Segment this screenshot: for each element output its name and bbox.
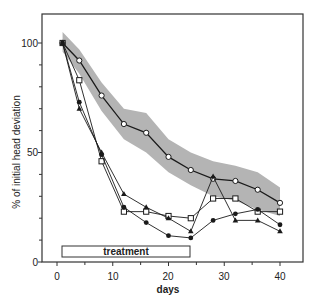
data-point bbox=[166, 154, 171, 159]
data-point bbox=[166, 233, 171, 238]
data-point bbox=[144, 130, 149, 135]
data-point bbox=[277, 200, 282, 205]
data-point bbox=[77, 58, 82, 63]
data-point bbox=[188, 228, 194, 233]
data-point bbox=[188, 167, 193, 172]
shaded-band bbox=[63, 32, 280, 216]
data-point bbox=[121, 191, 127, 196]
x-tick-label-20: 20 bbox=[162, 271, 174, 282]
x-tick-label-40: 40 bbox=[274, 271, 286, 282]
y-axis-title: % of initial head deviation bbox=[11, 95, 22, 208]
x-tick-label-10: 10 bbox=[107, 271, 119, 282]
y-tick-label-0: 0 bbox=[32, 257, 38, 268]
series-lines bbox=[60, 40, 283, 240]
data-point bbox=[278, 222, 283, 227]
x-tick-label-30: 30 bbox=[218, 271, 230, 282]
data-point bbox=[143, 204, 149, 209]
data-point bbox=[121, 209, 126, 214]
control-range-band bbox=[63, 32, 280, 216]
data-point bbox=[255, 217, 261, 222]
data-point bbox=[121, 121, 126, 126]
line-chart: 100 50 0 0 10 20 30 40 days % of initial… bbox=[0, 0, 317, 306]
data-point bbox=[255, 187, 260, 192]
data-point bbox=[255, 207, 260, 212]
data-point bbox=[99, 93, 104, 98]
data-point bbox=[211, 196, 216, 201]
data-point bbox=[277, 209, 282, 214]
x-axis-title: days bbox=[157, 284, 180, 295]
plot-frame bbox=[42, 14, 303, 262]
y-tick-label-100: 100 bbox=[21, 38, 38, 49]
data-point bbox=[211, 218, 216, 223]
data-point bbox=[233, 196, 238, 201]
data-point bbox=[233, 211, 238, 216]
data-point bbox=[188, 216, 193, 221]
x-tick-label-0: 0 bbox=[54, 271, 60, 282]
data-point bbox=[233, 217, 239, 222]
data-point bbox=[77, 78, 82, 83]
data-point bbox=[188, 236, 193, 241]
data-point bbox=[233, 178, 238, 183]
data-point bbox=[144, 220, 149, 225]
treatment-label: treatment bbox=[103, 246, 149, 257]
data-point bbox=[122, 205, 127, 210]
data-point bbox=[144, 209, 149, 214]
y-tick-label-50: 50 bbox=[27, 147, 39, 158]
